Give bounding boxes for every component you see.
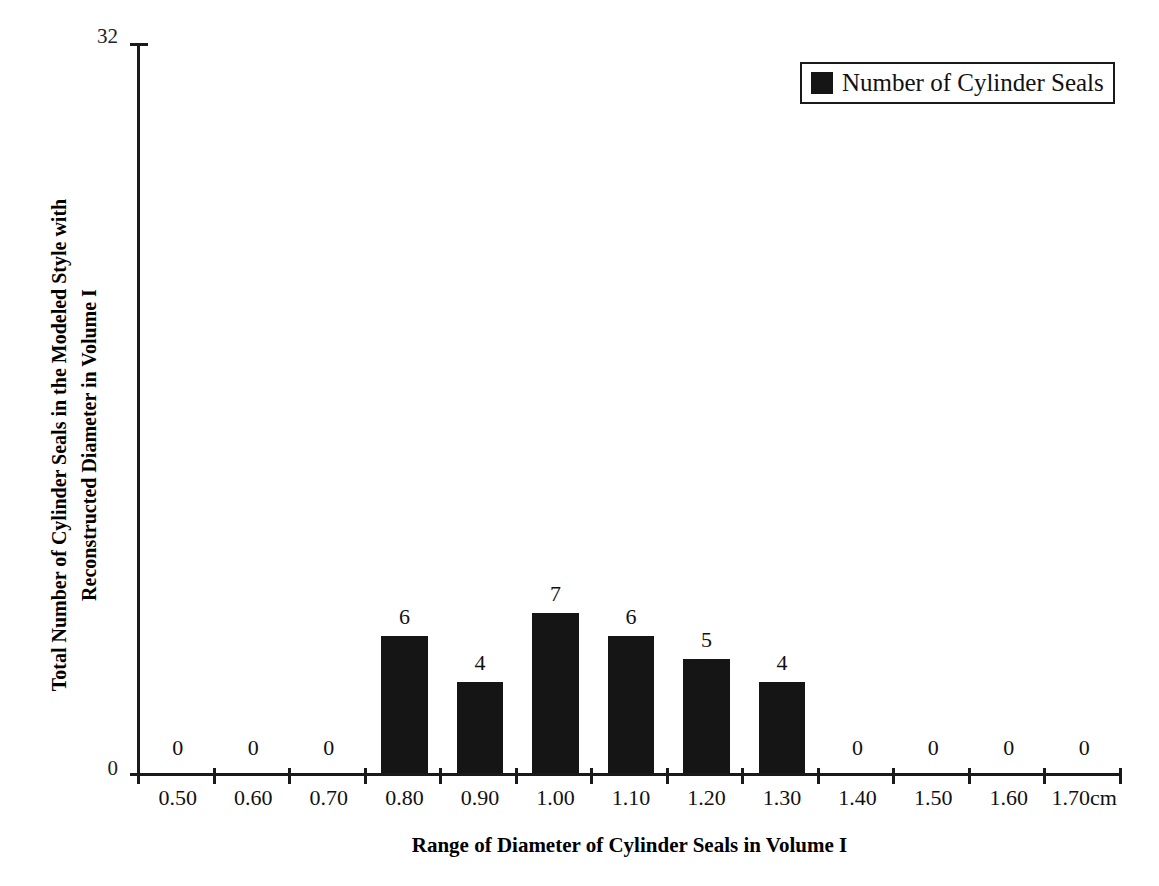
bar[interactable]	[683, 659, 730, 773]
y-axis-title-line-2: Reconstructed Diameter in Volume I	[74, 95, 104, 795]
x-axis-title: Range of Diameter of Cylinder Seals in V…	[137, 833, 1122, 857]
legend-label: Number of Cylinder Seals	[842, 69, 1104, 96]
x-axis-tick-label: 1.30	[744, 786, 820, 810]
bar-value-label: 5	[669, 629, 745, 651]
bar-value-label: 0	[1046, 737, 1122, 759]
x-axis-tick-label: 1.10	[593, 786, 669, 810]
bar[interactable]	[457, 682, 504, 773]
x-axis-tick-label: 1.40	[820, 786, 896, 810]
x-axis-tick-label: 0.70	[291, 786, 367, 810]
bar-value-label: 4	[442, 652, 518, 674]
x-axis-tick-label: 0.50	[140, 786, 216, 810]
bar[interactable]	[532, 613, 579, 773]
x-axis-tick-label: 1.50	[895, 786, 971, 810]
bar-value-label: 0	[140, 737, 216, 759]
x-axis-tick-label: 1.00	[518, 786, 594, 810]
bar-value-label: 0	[820, 737, 896, 759]
x-axis-tick-label: 1.70cm	[1046, 786, 1122, 810]
plot-area: 0006476540000	[140, 43, 1122, 773]
bar-value-label: 4	[744, 652, 820, 674]
y-axis-title-line-1: Total Number of Cylinder Seals in the Mo…	[44, 95, 74, 795]
bar-chart: 32 0 0.500.600.700.800.901.001.101.201.3…	[0, 0, 1159, 886]
bar[interactable]	[608, 636, 655, 773]
y-axis-title: Total Number of Cylinder Seals in the Mo…	[44, 95, 104, 795]
x-axis-line	[137, 773, 1122, 776]
legend[interactable]: Number of Cylinder Seals	[800, 62, 1115, 104]
x-axis-tick-label: 0.80	[367, 786, 443, 810]
bar-value-label: 0	[895, 737, 971, 759]
bar-value-label: 6	[367, 606, 443, 628]
x-axis-tick-label: 1.20	[669, 786, 745, 810]
bar-value-label: 7	[518, 583, 594, 605]
x-axis-tick-label: 1.60	[971, 786, 1047, 810]
y-axis-tick-label-max: 32	[48, 26, 118, 47]
bar[interactable]	[759, 682, 806, 773]
bar-value-label: 0	[216, 737, 292, 759]
bar-value-label: 0	[291, 737, 367, 759]
bar-value-label: 6	[593, 606, 669, 628]
x-axis-tick-label: 0.60	[216, 786, 292, 810]
filled-square-icon	[811, 72, 833, 94]
bar-value-label: 0	[971, 737, 1047, 759]
bar[interactable]	[381, 636, 428, 773]
x-axis-tick-label: 0.90	[442, 786, 518, 810]
